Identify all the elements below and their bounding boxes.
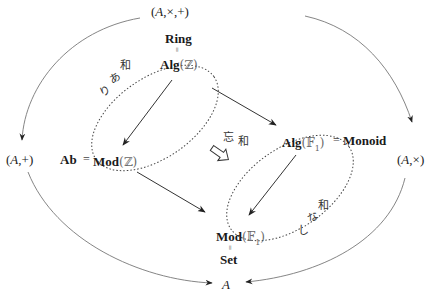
node-ring: Ring [165,32,192,45]
forget-hollow-arrow-icon [208,142,232,165]
alg-label: Alg [160,57,180,72]
ellipse-with-sum [73,44,237,192]
integers-symbol: ℤ [184,58,193,72]
paren: ) [193,58,198,72]
node-alg-f1: Alg(𝔽1) [282,134,325,153]
annotation-without-sum-1: 和 [318,200,329,211]
node-ab: Ab [60,153,77,166]
mod-label: Mod [216,229,242,244]
ops: ,×) [409,152,424,167]
arrow-left-to-bottom [28,172,212,283]
arrow-alg-z-to-alg-f1 [212,88,276,125]
node-set: Set [220,253,237,266]
equals-ab-mod-z: = [83,153,90,165]
arrow-right-to-bottom [246,178,405,282]
ops: ,+) [18,152,33,167]
node-mod-f1: Mod(𝔽1) [216,228,265,247]
field-one-symbol: 𝔽 [306,136,315,150]
node-top-A-times-plus: (A,×,+) [151,5,189,18]
equals-mod-f1-set: = [225,245,234,250]
node-left-A-plus: (A,+) [6,153,33,166]
paren: ) [260,230,265,244]
var-a: A [222,277,230,292]
ops: ,×,+) [163,4,189,19]
arrow-top-to-right [305,16,412,122]
mod-label: Mod [93,154,119,169]
arrow-alg-f1-to-mod-f1 [249,155,296,215]
diagram-canvas [0,0,435,302]
node-alg-z: Alg(ℤ) [160,56,198,72]
node-mod-z: Mod(ℤ) [93,153,137,169]
arrow-mod-z-to-mod-f1 [137,172,205,212]
paren: ) [320,136,325,150]
annotation-forget-sum: 和 [238,136,249,147]
node-monoid: Monoid [343,134,386,147]
node-bottom-A: A [222,278,230,291]
equals-ring-alg-z: = [172,47,181,52]
field-one-symbol: 𝔽 [247,230,256,244]
annotation-with-sum-1: 和 [120,60,131,71]
arrow-alg-z-to-mod-z [123,80,172,145]
annotation-forget: 忘 [223,132,234,143]
node-right-A-times: (A,×) [397,153,424,166]
annotation-without-sum-3: し [298,225,309,236]
equals-alg-f1-monoid: = [333,134,340,146]
paren: ) [132,155,137,169]
alg-label: Alg [282,135,302,150]
